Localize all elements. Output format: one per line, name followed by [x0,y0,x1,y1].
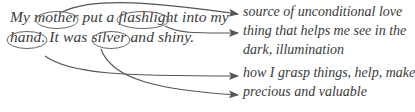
arrow-flashlight-to-meaning [165,26,238,33]
oval-flashlight [117,12,169,29]
oval-silver [92,32,130,49]
arrow-silver-to-meaning [101,49,238,95]
oval-hand [7,32,47,49]
symbolism-diagram: My mother put a flashlight into my hand.… [0,0,415,112]
oval-mother [36,12,78,29]
annotation-overlay [0,0,415,112]
arrow-hand-to-meaning [45,56,238,76]
